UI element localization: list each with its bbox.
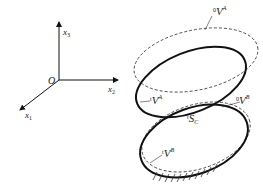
x1-label: x1: [24, 110, 32, 121]
label-tSC: tSC: [187, 112, 199, 125]
label-tVB: tVB: [162, 147, 174, 159]
upper-body-reference-outline: [128, 18, 263, 103]
x2-label: x2: [107, 84, 115, 95]
fixed-support-hatching: [153, 164, 217, 182]
coordinate-axes: O x3 x2 x1: [20, 22, 118, 121]
contact-diagram: O x3 x2 x1 0VA: [0, 0, 263, 192]
label-tVA: tVA: [150, 94, 162, 106]
label-0VB: 0VB: [236, 94, 250, 106]
origin-label: O: [48, 75, 55, 86]
label-0VA: 0VA: [213, 5, 227, 17]
x3-label: x3: [62, 27, 70, 38]
